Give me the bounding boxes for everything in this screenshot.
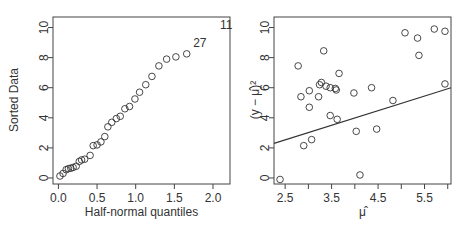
data-point: [416, 52, 423, 59]
data-point: [351, 90, 358, 97]
chart-canvas: 0.00.51.01.52.00246810Half-normal quanti…: [0, 0, 470, 229]
x-axis-label: Half-normal quantiles: [85, 205, 198, 219]
data-point: [390, 97, 397, 104]
x-tick-label: 5.5: [416, 191, 433, 205]
x-tick-label: 0.5: [89, 191, 106, 205]
data-point: [306, 104, 313, 111]
data-point: [414, 35, 421, 42]
y-tick-label: 10: [37, 21, 51, 35]
y-axis-label: (y − μ̂)²: [248, 81, 262, 120]
x-tick-label: 4.5: [370, 191, 387, 205]
data-point: [87, 152, 94, 159]
data-point: [327, 112, 334, 119]
y-tick-label: 6: [37, 84, 51, 91]
data-point: [163, 56, 170, 63]
data-point: [357, 172, 364, 179]
y-tick-label: 8: [258, 54, 272, 61]
data-point: [442, 81, 449, 88]
data-point: [431, 26, 438, 33]
data-point: [142, 81, 149, 88]
data-point: [108, 119, 115, 126]
residual-plot: 2.53.54.55.50246810μ̂(y − μ̂)²: [248, 17, 451, 219]
y-tick-label: 10: [258, 21, 272, 35]
data-point: [105, 124, 112, 131]
point-label: 11: [220, 18, 233, 32]
data-point: [334, 116, 341, 123]
data-point: [113, 115, 120, 122]
data-point: [183, 51, 190, 58]
data-point: [315, 93, 322, 100]
y-tick-label: 0: [37, 174, 51, 181]
regression-line: [274, 88, 451, 144]
data-point: [368, 84, 375, 91]
y-axis-label: Sorted Data: [7, 68, 21, 132]
x-axis-label: μ̂: [359, 205, 368, 219]
x-tick-label: 3.5: [323, 191, 340, 205]
data-point: [323, 83, 330, 90]
data-point: [353, 128, 360, 135]
plot-frame: [274, 17, 451, 184]
data-point: [277, 176, 284, 183]
data-point: [320, 48, 327, 55]
data-point: [300, 142, 307, 149]
half-normal-plot: 0.00.51.01.52.00246810Half-normal quanti…: [7, 17, 233, 219]
y-tick-label: 8: [37, 54, 51, 61]
data-point: [336, 70, 343, 77]
x-tick-label: 2.0: [205, 191, 222, 205]
data-point: [117, 113, 124, 120]
y-tick-label: 2: [37, 144, 51, 151]
data-point: [308, 136, 315, 143]
data-point: [298, 93, 305, 100]
data-point: [402, 29, 409, 36]
point-label: 27: [193, 36, 207, 50]
y-tick-label: 0: [258, 174, 272, 181]
data-point: [373, 126, 380, 133]
data-point: [101, 133, 108, 140]
y-tick-label: 2: [258, 144, 272, 151]
data-point: [173, 54, 180, 61]
x-tick-label: 0.0: [50, 191, 67, 205]
y-tick-label: 4: [37, 114, 51, 121]
x-tick-label: 1.5: [166, 191, 183, 205]
data-point: [132, 96, 139, 103]
x-tick-label: 1.0: [127, 191, 144, 205]
data-point: [306, 87, 313, 94]
data-point: [149, 73, 156, 80]
x-tick-label: 2.5: [277, 191, 294, 205]
data-point: [442, 28, 449, 35]
data-point: [295, 63, 302, 70]
data-point: [156, 63, 163, 70]
data-point: [136, 89, 143, 96]
figure: 0.00.51.01.52.00246810Half-normal quanti…: [0, 0, 470, 229]
